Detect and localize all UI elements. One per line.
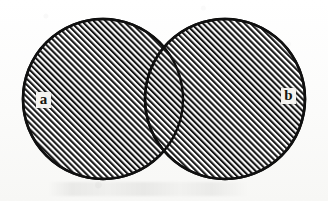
- set-label-b: b: [281, 88, 296, 104]
- set-label-a: a: [36, 92, 51, 108]
- venn-diagram-figure: a b: [0, 0, 328, 201]
